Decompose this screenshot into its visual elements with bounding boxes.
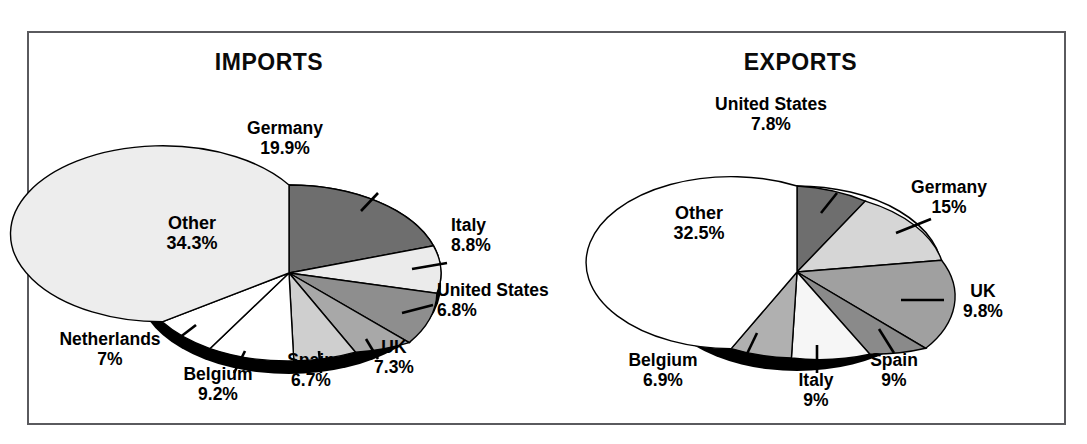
chart-frame: IMPORTS <box>27 31 1066 425</box>
pie-label-exports-united-states: United States 7.8% <box>705 95 837 134</box>
pie-label-exports-italy: Italy 9% <box>777 371 855 410</box>
pie-label-exports-germany: Germany 15% <box>887 178 1011 217</box>
pie-label-imports-italy: Italy 8.8% <box>451 216 491 255</box>
pie-label-exports-spain: Spain 9% <box>853 351 935 390</box>
pie-panel-exports: EXPORTS <box>549 33 1068 427</box>
pie-label-imports-belgium: Belgium 9.2% <box>163 365 273 404</box>
pie-label-imports-spain: Spain 6.7% <box>271 351 351 390</box>
pie-label-exports-other: Other 32.5% <box>641 203 757 243</box>
figure-canvas: IMPORTS <box>0 0 1087 444</box>
pie-label-imports-germany: Germany 19.9% <box>225 119 345 158</box>
pie-label-imports-united-states: United States 6.8% <box>437 281 549 320</box>
pie-panel-imports: IMPORTS <box>29 33 549 427</box>
pie-label-imports-other: Other 34.3% <box>139 213 245 253</box>
pie-label-exports-belgium: Belgium 6.9% <box>605 351 721 390</box>
pie-label-exports-uk: UK 9.8% <box>947 282 1019 321</box>
pie-label-imports-netherlands: Netherlands 7% <box>37 330 183 369</box>
pie-label-imports-uk: UK 7.3% <box>363 338 425 377</box>
